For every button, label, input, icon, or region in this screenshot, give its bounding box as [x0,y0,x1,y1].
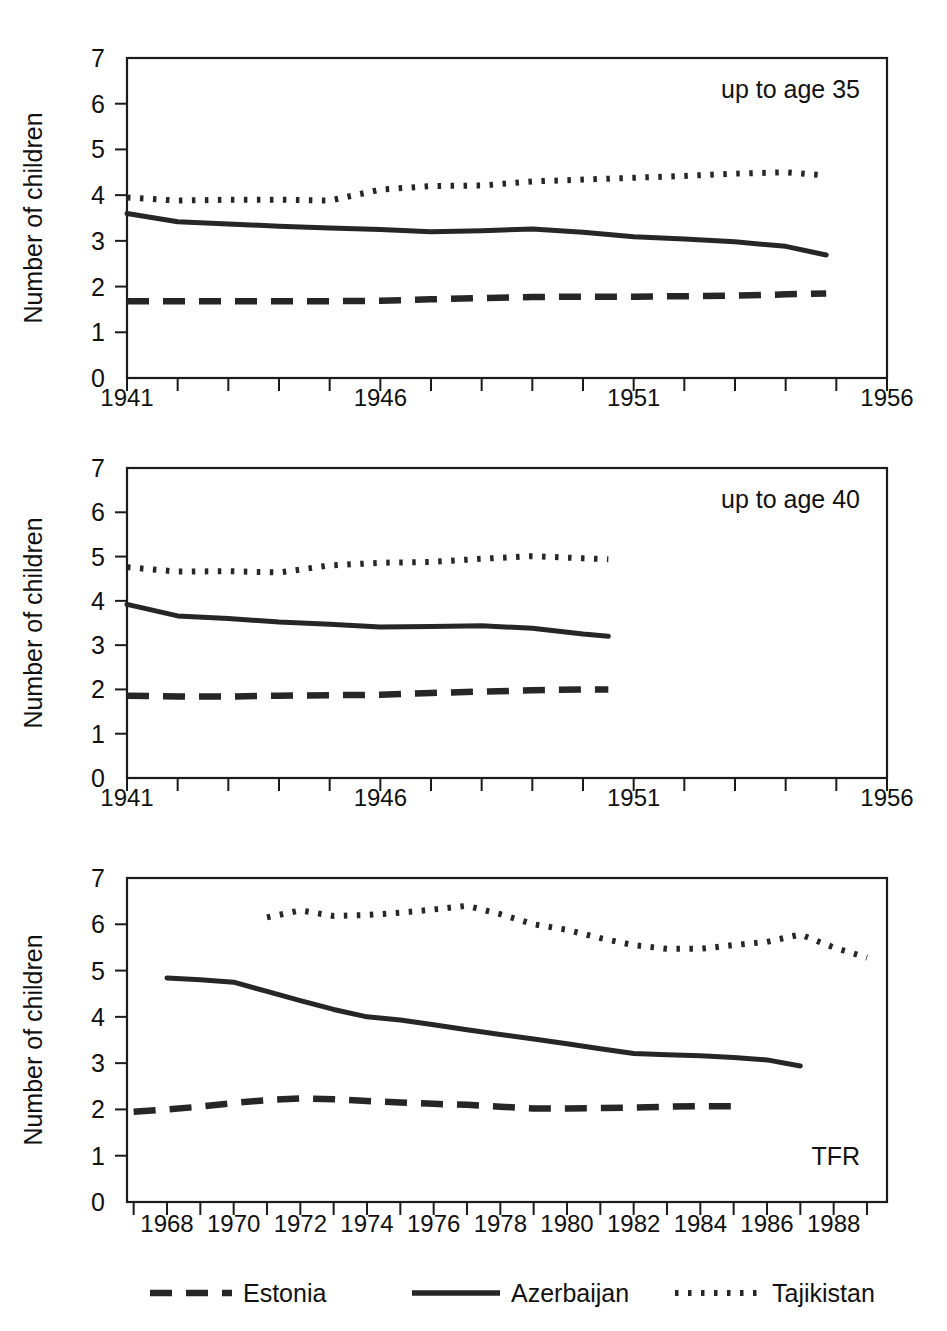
y-tick-label: 1 [91,1142,105,1170]
x-tick-label: 1986 [740,1210,793,1237]
series-line-tajikistan [127,556,608,572]
y-tick-label: 4 [91,1003,105,1031]
plot-area-1: 012345671941194619511956Number of childr… [0,430,947,820]
panel-annotation: TFR [811,1142,860,1170]
x-tick-label: 1984 [674,1210,727,1237]
chart-legend: Estonia Azerbaijan Tajikistan [0,1268,947,1318]
series-line-estonia [127,689,608,696]
legend-label-tajikistan: Tajikistan [772,1279,875,1307]
plot-area-0: 012345671941194619511956Number of childr… [0,0,947,430]
series-line-tajikistan [267,906,867,958]
y-tick-label: 2 [91,273,105,301]
x-tick-label: 1941 [100,784,153,811]
y-tick-label: 6 [91,498,105,526]
legend-item-tajikistan: Tajikistan [675,1279,875,1307]
series-line-tajikistan [127,172,826,200]
y-tick-label: 7 [91,864,105,892]
y-tick-label: 4 [91,587,105,615]
x-tick-label: 1976 [407,1210,460,1237]
y-tick-label: 5 [91,543,105,571]
panel-annotation: up to age 40 [721,485,860,513]
x-tick-label: 1970 [207,1210,260,1237]
chart-panel-up-to-age-35: 012345671941194619511956Number of childr… [0,0,947,430]
legend-item-azerbaijan: Azerbaijan [412,1279,629,1307]
y-tick-label: 5 [91,135,105,163]
x-tick-label: 1968 [140,1210,193,1237]
x-tick-label: 1956 [860,784,913,811]
x-tick-label: 1951 [607,784,660,811]
y-tick-label: 1 [91,318,105,346]
x-tick-label: 1941 [100,384,153,411]
y-tick-label: 6 [91,90,105,118]
series-line-estonia [134,1098,734,1111]
series-line-azerbaijan [127,604,608,636]
y-tick-label: 0 [91,1188,105,1216]
y-tick-label: 3 [91,227,105,255]
plot-frame [127,878,887,1202]
plot-frame [127,58,887,378]
y-tick-label: 7 [91,44,105,72]
x-tick-label: 1974 [340,1210,393,1237]
y-axis-title: Number of children [19,112,47,323]
legend-item-estonia: Estonia [150,1279,326,1307]
legend-svg: Estonia Azerbaijan Tajikistan [0,1268,947,1318]
y-tick-label: 5 [91,957,105,985]
legend-label-estonia: Estonia [243,1279,326,1307]
x-tick-label: 1946 [354,784,407,811]
y-tick-label: 2 [91,675,105,703]
x-tick-label: 1972 [274,1210,327,1237]
x-tick-label: 1980 [540,1210,593,1237]
plot-frame [127,468,887,778]
legend-label-azerbaijan: Azerbaijan [511,1279,629,1307]
y-axis-title: Number of children [19,517,47,728]
panel-annotation: up to age 35 [721,75,860,103]
plot-area-2: 0123456719681970197219741976197819801982… [0,820,947,1268]
x-tick-label: 1988 [807,1210,860,1237]
chart-panel-tfr: 0123456719681970197219741976197819801982… [0,820,947,1268]
y-tick-label: 4 [91,181,105,209]
y-tick-label: 2 [91,1095,105,1123]
x-tick-label: 1951 [607,384,660,411]
y-tick-label: 6 [91,910,105,938]
figure-root: 012345671941194619511956Number of childr… [0,0,947,1331]
series-line-estonia [127,293,826,301]
y-tick-label: 7 [91,454,105,482]
chart-panel-up-to-age-40: 012345671941194619511956Number of childr… [0,430,947,820]
series-line-azerbaijan [127,213,826,255]
y-tick-label: 3 [91,631,105,659]
series-line-azerbaijan [167,978,800,1066]
y-axis-title: Number of children [19,934,47,1145]
x-tick-label: 1982 [607,1210,660,1237]
x-tick-label: 1978 [474,1210,527,1237]
y-tick-label: 3 [91,1049,105,1077]
x-tick-label: 1946 [354,384,407,411]
y-tick-label: 1 [91,720,105,748]
x-tick-label: 1956 [860,384,913,411]
